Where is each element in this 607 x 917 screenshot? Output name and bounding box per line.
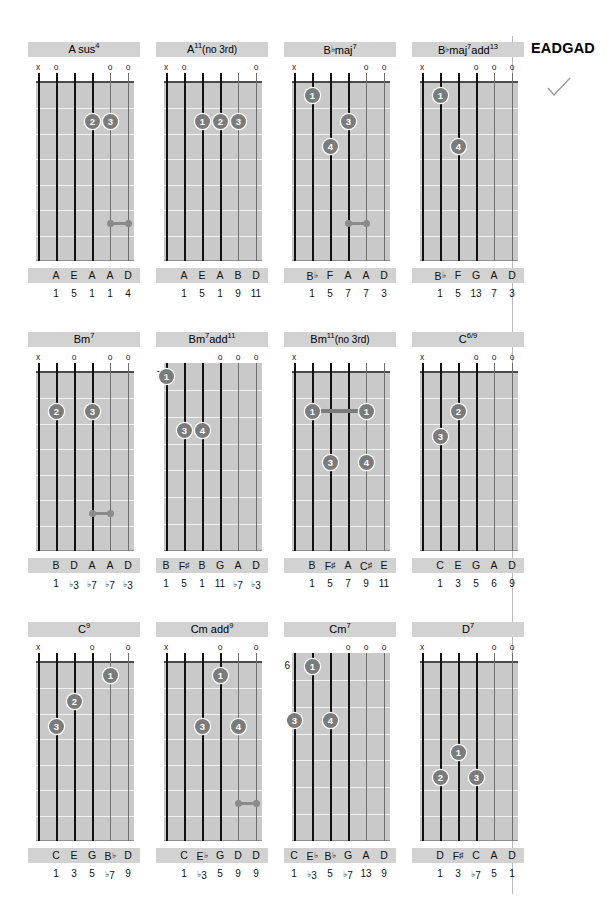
- fretboard[interactable]: 23: [420, 363, 518, 551]
- note-name: G: [339, 848, 357, 863]
- fretboard[interactable]: 134: [164, 363, 262, 551]
- nut: [420, 653, 518, 663]
- chord-card[interactable]: C6/9xooo23CEGAD13569: [406, 326, 530, 614]
- fret-line: [420, 159, 518, 160]
- fretboard[interactable]: 134: [292, 73, 390, 261]
- muted-string-icon: x: [289, 61, 299, 73]
- checkmark-icon: [546, 76, 572, 100]
- open-string-icon: o: [251, 61, 261, 73]
- note-name: A: [47, 268, 65, 283]
- interval-degree: 1: [101, 287, 119, 301]
- note-name: C♯: [357, 558, 375, 573]
- fret-line: [420, 108, 518, 109]
- fret-line: [36, 500, 134, 501]
- string: [348, 653, 350, 841]
- fret-line: [420, 475, 518, 476]
- note-name: C: [285, 848, 303, 863]
- fretboard[interactable]: 23: [36, 363, 134, 551]
- fret-line: [292, 840, 390, 841]
- interval-degree: 5: [467, 577, 485, 591]
- chord-card[interactable]: Bm7add11ooo7134BF♯BGAD15111♭7♭3: [150, 326, 274, 614]
- open-string-icon: o: [215, 351, 225, 363]
- fret-line: [420, 526, 518, 527]
- note-name: D: [247, 848, 265, 863]
- open-string-icon: o: [251, 351, 261, 363]
- note-name: E♭: [303, 848, 321, 863]
- finger-dot: 3: [231, 114, 246, 129]
- note-name: A: [339, 268, 357, 283]
- interval-degree: 1: [175, 287, 193, 301]
- interval-degree: 1: [193, 577, 211, 591]
- string: [512, 363, 513, 551]
- chord-card[interactable]: Cm7ooo6134CE♭B♭GAD1♭35♭7139: [278, 616, 402, 904]
- string: [458, 363, 460, 551]
- fretboard[interactable]: 123: [164, 73, 262, 261]
- finger-dot: 3: [287, 713, 302, 728]
- open-string-icon: o: [123, 61, 133, 73]
- open-string-icon: o: [489, 61, 499, 73]
- finger-dot: 3: [469, 770, 484, 785]
- interval-degree: 1: [47, 577, 65, 591]
- chord-card[interactable]: B♭maj7xoo134B♭FAAD15773: [278, 36, 402, 324]
- chord-card[interactable]: A sus4xooo23AEAAD15114: [22, 36, 146, 324]
- chord-card[interactable]: Cm add9xoo134CE♭GDD1♭3599: [150, 616, 274, 904]
- finger-dot: 1: [103, 668, 118, 683]
- fretboard[interactable]: 23: [36, 73, 134, 261]
- note-name: E: [375, 558, 393, 573]
- string: [184, 653, 186, 841]
- fretboard[interactable]: 134: [292, 653, 390, 841]
- interval-degree: 1: [431, 577, 449, 591]
- note-name: G: [83, 848, 101, 863]
- fret-line: [36, 739, 134, 740]
- fret-line: [36, 688, 134, 689]
- finger-dot: 2: [433, 770, 448, 785]
- note-name: D: [503, 268, 521, 283]
- fret-line: [292, 424, 390, 425]
- interval-degree: 5: [211, 867, 229, 881]
- string: [330, 653, 332, 841]
- fret-line: [36, 475, 134, 476]
- interval-degree: 1: [83, 287, 101, 301]
- string: [312, 363, 314, 551]
- nut: [36, 363, 134, 373]
- fret-line: [420, 688, 518, 689]
- fret-line: [164, 524, 262, 525]
- chord-card[interactable]: B♭maj7add13xooo14B♭FGAD151373: [406, 36, 530, 324]
- fretboard-surface: [36, 373, 134, 551]
- chord-card[interactable]: Bm11(no 3rd)x1134BF♯AC♯E157911: [278, 326, 402, 614]
- fret-line: [420, 185, 518, 186]
- fret-line: [420, 739, 518, 740]
- fretboard[interactable]: 123: [420, 653, 518, 841]
- string: [312, 653, 314, 841]
- chord-title: Bm7add11: [156, 331, 268, 347]
- interval-degree: ♭3: [193, 867, 211, 881]
- fretboard-surface: [292, 83, 390, 261]
- chord-card[interactable]: Bm7xooo23BDAAD1♭3♭7♭7♭3: [22, 326, 146, 614]
- fret-position-number: 6: [278, 660, 290, 672]
- open-string-icon: o: [507, 351, 517, 363]
- nut: [36, 653, 134, 663]
- fretboard[interactable]: 134: [164, 653, 262, 841]
- chord-title: Bm7: [28, 331, 140, 347]
- fretboard[interactable]: 123: [36, 653, 134, 841]
- note-name: C: [431, 558, 449, 573]
- note-name: F♯: [175, 558, 193, 573]
- string: [202, 653, 204, 841]
- note-name: D: [247, 558, 265, 573]
- position-marker: [345, 220, 370, 227]
- chord-card[interactable]: C9xoo123CEGB♭D135♭79: [22, 616, 146, 904]
- fretboard[interactable]: 1134: [292, 363, 390, 551]
- chord-card[interactable]: A11(no 3rd)xoo123AEABD151911: [150, 36, 274, 324]
- tuning-label: EADGAD: [531, 40, 595, 56]
- fretboard[interactable]: 14: [420, 73, 518, 261]
- interval-degree: 9: [503, 577, 521, 591]
- fret-line: [164, 790, 262, 791]
- fret-line: [420, 449, 518, 450]
- muted-string-icon: x: [33, 351, 43, 363]
- fret-line: [292, 260, 390, 261]
- fret-line: [420, 765, 518, 766]
- interval-degree: ♭7: [101, 867, 119, 881]
- nut: [420, 363, 518, 373]
- chord-card[interactable]: D7xoo123DF♯CAD13♭751: [406, 616, 530, 904]
- fretboard-surface: [420, 663, 518, 841]
